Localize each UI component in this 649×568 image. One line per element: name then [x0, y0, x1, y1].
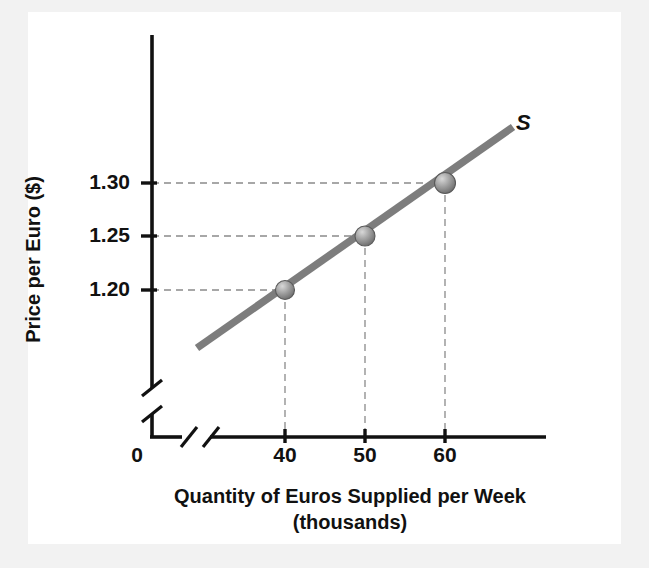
y-axis-break-mark [142, 380, 162, 422]
x-axis-title: Quantity of Euros Supplied per Week (tho… [152, 483, 548, 535]
x-tick-label-60: 60 [415, 443, 475, 467]
series-label-supply: S [516, 110, 531, 136]
y-tick-label-1-25: 1.25 [58, 223, 130, 247]
x-axis-title-line2: (thousands) [152, 509, 548, 535]
y-tick-label-1-30: 1.30 [58, 170, 130, 194]
x-axis-title-line1: Quantity of Euros Supplied per Week [152, 483, 548, 509]
vertical-guide-lines [285, 183, 445, 437]
y-axis-title: Price per Euro ($) [22, 150, 45, 370]
data-point-marker-60[interactable] [435, 173, 456, 194]
data-point-marker-50[interactable] [355, 226, 375, 246]
y-tick-label-1-20: 1.20 [58, 277, 130, 301]
figure-page: 1.30 1.25 1.20 40 50 60 0 S Price per Eu… [0, 0, 649, 568]
x-tick-label-40: 40 [255, 443, 315, 467]
y-tick-marks [141, 183, 157, 290]
x-tick-label-50: 50 [335, 443, 395, 467]
data-point-marker-40[interactable] [276, 281, 295, 300]
origin-label: 0 [122, 443, 152, 467]
